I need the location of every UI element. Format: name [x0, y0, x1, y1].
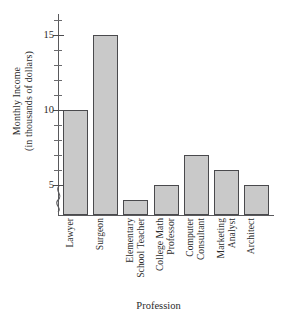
y-tick-label: 15	[44, 30, 55, 41]
x-axis-title: Profession	[0, 300, 283, 311]
y-axis-title: Monthly Income (in thousands of dollars)	[11, 21, 45, 181]
y-axis-title-line-1: Monthly Income	[11, 21, 23, 181]
y-axis-title-line-2: (in thousands of dollars)	[23, 21, 35, 181]
bar	[63, 110, 88, 215]
bar-chart: Monthly Income (in thousands of dollars)…	[0, 0, 283, 320]
bar-series	[58, 14, 274, 216]
bar	[214, 170, 239, 215]
bar	[93, 35, 118, 215]
bar	[184, 155, 209, 215]
plot-area: 51015	[58, 14, 274, 216]
x-axis-title-text: Profession	[102, 300, 180, 311]
bar	[123, 200, 148, 215]
bar	[244, 185, 269, 215]
x-axis-tick-labels: LawyerSurgeonElementarySchool TeacherCol…	[58, 218, 274, 294]
y-tick-label: 10	[44, 105, 55, 116]
bar	[154, 185, 179, 215]
